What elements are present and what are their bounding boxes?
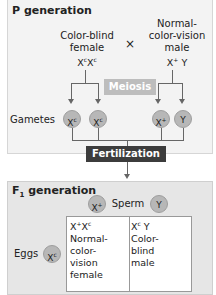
female-label-line2: female bbox=[52, 42, 122, 54]
s: c bbox=[73, 116, 76, 123]
arrow-icon bbox=[179, 99, 185, 104]
s: c bbox=[99, 116, 102, 123]
f1-generation-title: F1 generation bbox=[12, 184, 96, 199]
t: generation bbox=[24, 184, 96, 197]
connector bbox=[182, 83, 183, 100]
cross-symbol: × bbox=[124, 38, 136, 50]
genotype: Xc Y bbox=[131, 218, 186, 233]
s: + bbox=[162, 116, 167, 123]
genotype: X+Xc bbox=[70, 218, 126, 233]
t: F bbox=[12, 184, 20, 197]
connector bbox=[71, 83, 72, 100]
phenotype-line: vision bbox=[70, 257, 126, 269]
egg-xc: Xc bbox=[43, 245, 61, 263]
gamete-xc: Xc bbox=[63, 110, 81, 128]
arrow-icon bbox=[68, 99, 74, 104]
phenotype-line: color- bbox=[70, 245, 126, 257]
g: Y bbox=[141, 221, 150, 232]
connector bbox=[172, 70, 173, 83]
phenotype-line: male bbox=[131, 257, 186, 269]
s: + bbox=[173, 56, 178, 63]
phenotype-line: blind bbox=[131, 245, 186, 257]
male-label-line3: male bbox=[140, 42, 214, 54]
g: Y bbox=[156, 200, 162, 210]
male-label-line1: Normal- bbox=[140, 18, 214, 30]
s: c bbox=[88, 220, 91, 227]
connector bbox=[98, 83, 99, 100]
gametes-label: Gametes bbox=[10, 114, 66, 126]
offspring-cell-female: X+Xc Normal- color- vision female bbox=[67, 217, 130, 291]
connector bbox=[85, 70, 86, 83]
sperm-label: Sperm bbox=[110, 198, 146, 210]
gamete-xc: Xc bbox=[89, 110, 107, 128]
sperm-xplus: X+ bbox=[88, 195, 106, 213]
arrow-down-icon bbox=[124, 174, 130, 179]
eggs-label: Eggs bbox=[14, 248, 44, 260]
phenotype-line: Color- bbox=[131, 233, 186, 245]
fertilization-label: Fertilization bbox=[86, 146, 166, 162]
male-label: Normal- color-vision male X+ Y bbox=[140, 18, 214, 69]
female-label: Color-blind female XcXc bbox=[52, 30, 122, 69]
g: Y bbox=[180, 115, 186, 125]
connector bbox=[72, 140, 184, 141]
connector bbox=[98, 128, 99, 140]
offspring-cell-male: Xc Y Color- blind male bbox=[128, 217, 189, 270]
connector bbox=[158, 83, 159, 100]
gamete-y: Y bbox=[174, 110, 192, 128]
meiosis-label: Meiosis bbox=[104, 79, 156, 95]
female-label-line1: Color-blind bbox=[52, 30, 122, 42]
phenotype-line: Normal- bbox=[70, 233, 126, 245]
gamete-xplus: X+ bbox=[152, 110, 170, 128]
connector bbox=[71, 83, 99, 84]
g: Y bbox=[181, 57, 187, 68]
s: + bbox=[98, 201, 103, 208]
connector bbox=[72, 128, 73, 140]
phenotype-line: female bbox=[70, 269, 126, 281]
female-genotype: XcXc bbox=[52, 54, 122, 69]
male-genotype: X+ Y bbox=[140, 54, 214, 69]
s: c bbox=[53, 251, 56, 258]
sperm-y: Y bbox=[150, 195, 168, 213]
connector bbox=[158, 83, 182, 84]
p-generation-title: P generation bbox=[12, 4, 92, 17]
punnett-square: X+Xc Normal- color- vision female Xc Y C… bbox=[66, 216, 192, 292]
s: c bbox=[94, 56, 97, 63]
arrow-icon bbox=[95, 99, 101, 104]
connector bbox=[161, 128, 162, 140]
arrow-icon bbox=[155, 99, 161, 104]
connector bbox=[183, 128, 184, 140]
male-label-line2: color-vision bbox=[140, 30, 214, 42]
